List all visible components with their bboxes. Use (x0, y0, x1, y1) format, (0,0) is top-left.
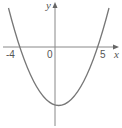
parabola-diagram: -4 0 5 x y (0, 0, 122, 128)
origin-label: 0 (47, 49, 53, 60)
x-axis-label: x (113, 48, 119, 60)
parabola-curve (9, 8, 110, 106)
x-intercept-label-right: 5 (100, 49, 106, 60)
y-axis (53, 2, 58, 126)
y-axis-arrow-icon (53, 2, 58, 8)
x-intercept-label-left: -4 (6, 49, 15, 60)
y-axis-label: y (45, 0, 51, 11)
